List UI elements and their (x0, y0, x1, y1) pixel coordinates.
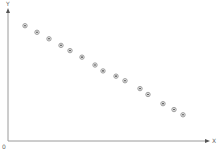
data-point (68, 48, 72, 52)
y-axis-label: Y (6, 1, 10, 7)
data-point (172, 107, 176, 111)
x-axis-arrow-icon (205, 139, 210, 143)
x-axis (8, 139, 210, 143)
data-point (146, 92, 150, 96)
data-point (23, 24, 27, 28)
data-point (101, 69, 105, 73)
origin-label: 0 (2, 144, 6, 150)
data-point (47, 37, 51, 41)
data-point (123, 79, 127, 83)
y-axis (6, 8, 10, 141)
data-point (93, 63, 97, 67)
data-point (114, 74, 118, 78)
data-point (35, 30, 39, 34)
x-axis-label: X (212, 138, 216, 144)
data-point (138, 86, 142, 90)
y-axis-arrow-icon (6, 8, 10, 13)
data-point (59, 43, 63, 47)
data-point (80, 55, 84, 59)
data-point (161, 101, 165, 105)
data-points (23, 24, 185, 117)
data-point (181, 113, 185, 117)
scatter-chart (0, 0, 219, 155)
